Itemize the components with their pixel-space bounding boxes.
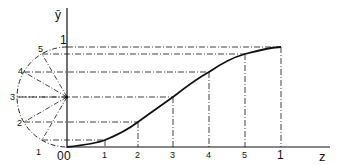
- origin-label-left: 0: [57, 149, 64, 163]
- x-tick-label: 1: [102, 150, 107, 160]
- x-tick-label: 5: [242, 150, 247, 160]
- circle-point-labels: 1 2 3 4 5: [10, 44, 43, 157]
- circle-point-label: 5: [38, 44, 43, 54]
- x-axis-label: z: [319, 149, 326, 164]
- s-curve-construction-diagram: ȳ 1 z 0 0 1 2 3 4 5 1 1 2 3 4 5: [0, 0, 341, 165]
- origin-label-right: 0: [64, 149, 71, 163]
- x-tick-label: 3: [170, 150, 175, 160]
- circle-point-label: 1: [36, 147, 41, 157]
- y-axis-label: ȳ: [55, 8, 61, 22]
- y-top-label: 1: [60, 33, 67, 47]
- horizontal-projection-lines: [17, 47, 281, 140]
- circle-point-label: 4: [18, 66, 23, 76]
- circle-point-label: 3: [10, 92, 15, 102]
- x-tick-label: 2: [135, 150, 140, 160]
- x-tick-label: 1: [277, 148, 284, 162]
- x-tick-labels: 1 2 3 4 5 1: [102, 148, 284, 162]
- circle-point-label: 2: [17, 118, 22, 128]
- circle-center-dot: [65, 95, 68, 98]
- x-tick-label: 4: [206, 150, 211, 160]
